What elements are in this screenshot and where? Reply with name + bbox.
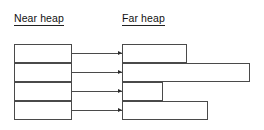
connector-1-arrowhead-icon bbox=[118, 51, 122, 55]
far-block-4 bbox=[122, 101, 208, 120]
far-heap-title: Far heap bbox=[122, 12, 165, 26]
connector-2 bbox=[72, 72, 122, 73]
connector-1 bbox=[72, 53, 122, 54]
near-block-2 bbox=[14, 63, 72, 82]
near-heap-title: Near heap bbox=[14, 12, 64, 26]
connector-3 bbox=[72, 91, 122, 92]
near-far-heap-diagram: Near heap Far heap bbox=[0, 0, 264, 130]
near-block-3 bbox=[14, 82, 72, 101]
near-block-1 bbox=[14, 44, 72, 63]
near-block-4 bbox=[14, 101, 72, 120]
connector-4-arrowhead-icon bbox=[118, 108, 122, 112]
connector-2-arrowhead-icon bbox=[118, 70, 122, 74]
far-block-2 bbox=[122, 63, 250, 82]
connector-3-arrowhead-icon bbox=[118, 89, 122, 93]
connector-4 bbox=[72, 110, 122, 111]
far-block-1 bbox=[122, 44, 187, 63]
far-block-3 bbox=[122, 82, 163, 101]
